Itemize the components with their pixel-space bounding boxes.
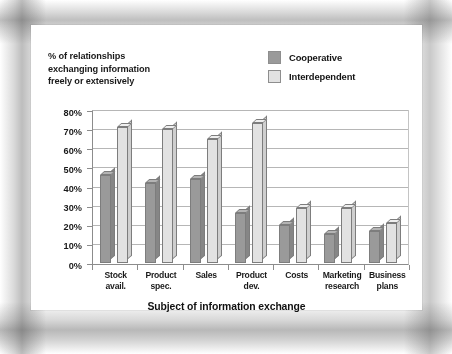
category-label-line: dev. [229, 281, 274, 292]
category-label-line: Product [229, 270, 274, 281]
category-label-line: Business [365, 270, 410, 281]
bar-side [263, 116, 267, 259]
gridline [93, 110, 408, 111]
bar-cooperative[interactable] [279, 221, 294, 263]
chart-card: % of relationships exchanging informatio… [31, 25, 422, 310]
bar-group [228, 112, 273, 263]
bar-side [156, 175, 160, 259]
bar-face [252, 123, 263, 263]
bar-group [94, 112, 139, 263]
bar-interdependent[interactable] [207, 135, 222, 263]
plot-area-wrapper: 0%10%20%30%40%50%60%70%80% [92, 110, 409, 265]
category-label-line: plans [365, 281, 410, 292]
legend-label-interdependent: Interdependent [289, 71, 355, 82]
bar-group [318, 112, 363, 263]
chart-legend: Cooperative Interdependent [268, 51, 355, 89]
bar-cooperative[interactable] [235, 209, 250, 263]
y-axis-tick-label: 30% [44, 203, 82, 213]
bar-group [362, 112, 407, 263]
category-label-line: spec. [138, 281, 183, 292]
bar-side [307, 200, 311, 259]
legend-item-interdependent: Interdependent [268, 70, 355, 83]
y-axis-tick-label: 10% [44, 241, 82, 251]
x-axis-category-label: Stockavail. [93, 270, 138, 293]
y-axis-tick-label: 40% [44, 184, 82, 194]
category-label-line: Product [138, 270, 183, 281]
category-label-line: Sales [184, 270, 229, 281]
bar-interdependent[interactable] [341, 204, 356, 263]
y-axis-tick-mark [87, 207, 92, 208]
bar-cooperative[interactable] [190, 175, 205, 263]
category-label-line: research [319, 281, 364, 292]
legend-swatch-interdependent [268, 70, 281, 83]
x-axis-category-label: Costs [274, 270, 319, 293]
bar-interdependent[interactable] [386, 219, 401, 263]
bar-face [341, 208, 352, 263]
bar-groups [94, 112, 407, 263]
bar-group [183, 112, 228, 263]
y-axis-note-line-2: exchanging information [48, 63, 238, 76]
bar-cooperative[interactable] [324, 230, 339, 263]
bar-interdependent[interactable] [162, 125, 177, 263]
legend-item-cooperative: Cooperative [268, 51, 355, 64]
y-axis-tick-label: 60% [44, 146, 82, 156]
bar-face [324, 234, 335, 263]
x-axis-category-label: Sales [184, 270, 229, 293]
category-label-line: Marketing [319, 270, 364, 281]
bar-side [246, 206, 250, 259]
y-axis-tick-label: 70% [44, 127, 82, 137]
category-label-line: avail. [93, 281, 138, 292]
bar-side [128, 120, 132, 259]
y-axis-note-line-3: freely or extensively [48, 75, 238, 88]
y-axis-note: % of relationships exchanging informatio… [48, 50, 238, 88]
y-axis-tick-label: 20% [44, 222, 82, 232]
bar-cooperative[interactable] [100, 171, 115, 263]
bar-face [100, 175, 111, 263]
x-axis-category-label: Productdev. [229, 270, 274, 293]
legend-label-cooperative: Cooperative [289, 52, 342, 63]
bar-side [218, 131, 222, 259]
bar-face [145, 183, 156, 263]
x-axis-category-labels: Stockavail.Productspec.SalesProductdev.C… [93, 270, 410, 293]
bar-side [173, 122, 177, 259]
bar-group [273, 112, 318, 263]
bar-side [111, 167, 115, 259]
x-axis-category-label: Productspec. [138, 270, 183, 293]
bar-cooperative[interactable] [369, 227, 384, 264]
y-axis-tick-mark [87, 188, 92, 189]
bar-interdependent[interactable] [117, 123, 132, 263]
bar-interdependent[interactable] [252, 119, 267, 263]
bar-face [279, 225, 290, 263]
bar-face [117, 127, 128, 263]
y-axis-tick-mark [87, 130, 92, 131]
category-label-line: Stock [93, 270, 138, 281]
bar-side [201, 171, 205, 259]
y-axis-tick-mark [87, 111, 92, 112]
bar-side [352, 200, 356, 259]
y-axis-note-line-1: % of relationships [48, 50, 238, 63]
y-axis-tick-mark [87, 168, 92, 169]
bar-face [190, 179, 201, 263]
y-axis-tick-mark [87, 245, 92, 246]
y-axis-tick-mark [87, 226, 92, 227]
bar-face [207, 139, 218, 263]
x-axis-category-label: Businessplans [365, 270, 410, 293]
bar-face [386, 223, 397, 263]
legend-swatch-cooperative [268, 51, 281, 64]
bar-face [296, 208, 307, 263]
bar-face [235, 213, 246, 263]
category-label-line: Costs [274, 270, 319, 281]
x-axis-title: Subject of information exchange [31, 301, 422, 312]
bar-face [162, 129, 173, 263]
bar-cooperative[interactable] [145, 179, 160, 263]
bar-interdependent[interactable] [296, 204, 311, 263]
plot-area [92, 110, 409, 265]
bar-group [139, 112, 184, 263]
bar-face [369, 231, 380, 264]
x-axis-category-label: Marketingresearch [319, 270, 364, 293]
y-axis-tick-label: 0% [44, 261, 82, 271]
y-axis-tick-label: 50% [44, 165, 82, 175]
y-axis-tick-label: 80% [44, 108, 82, 118]
y-axis-tick-mark [87, 149, 92, 150]
